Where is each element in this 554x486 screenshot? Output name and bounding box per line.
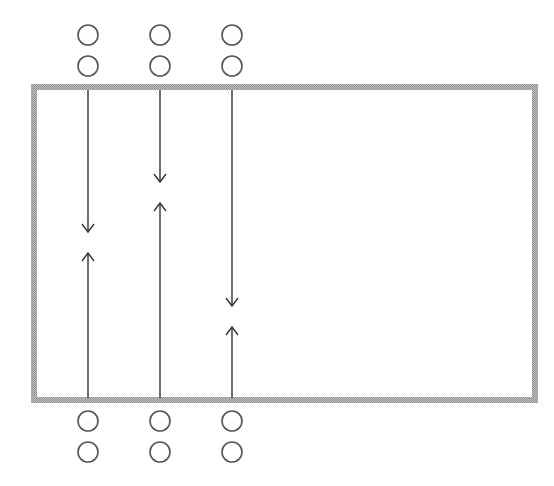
bottom-circle-node — [150, 442, 170, 462]
top-circle-node — [150, 25, 170, 45]
column-2 — [150, 25, 170, 462]
container-box — [34, 87, 535, 400]
down-arrow-icon — [154, 90, 166, 182]
columns — [78, 25, 242, 462]
column-1 — [78, 25, 98, 462]
bottom-circle-node — [78, 442, 98, 462]
up-arrow-icon — [82, 253, 94, 398]
flow-diagram — [0, 0, 554, 486]
bottom-circle-node — [222, 442, 242, 462]
up-arrow-icon — [154, 203, 166, 398]
down-arrow-icon — [82, 90, 94, 232]
down-arrow-icon — [226, 90, 238, 306]
container-box-border — [34, 87, 535, 400]
bottom-circle-node — [222, 411, 242, 431]
top-circle-node — [222, 25, 242, 45]
top-circle-node — [150, 56, 170, 76]
bottom-circle-node — [150, 411, 170, 431]
bottom-circle-node — [78, 411, 98, 431]
up-arrow-icon — [226, 327, 238, 398]
top-circle-node — [78, 56, 98, 76]
top-circle-node — [78, 25, 98, 45]
column-3 — [222, 25, 242, 462]
top-circle-node — [222, 56, 242, 76]
